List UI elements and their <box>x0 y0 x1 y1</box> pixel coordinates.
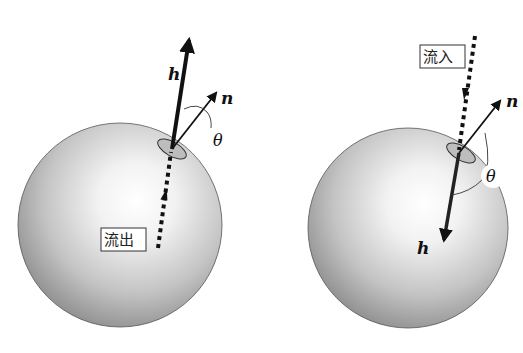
right-h-label: h <box>417 238 429 258</box>
right-theta-label: θ <box>486 167 496 186</box>
left-theta-label: θ <box>213 131 223 150</box>
right-sphere <box>308 128 508 328</box>
left-panel: h n θ 流出 <box>18 40 233 327</box>
left-sphere <box>18 123 222 327</box>
left-h-label: h <box>168 64 180 84</box>
left-n-label: n <box>221 88 233 108</box>
right-panel: θ h n 流入 <box>308 36 518 328</box>
left-flow-label: 流出 <box>104 231 134 249</box>
right-flow-label: 流入 <box>423 48 453 66</box>
left-vector-h <box>172 40 189 149</box>
figure-canvas: h n θ 流出 θ h n 流入 <box>0 0 523 353</box>
right-n-label: n <box>506 91 518 111</box>
